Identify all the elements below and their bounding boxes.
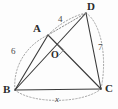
segment-B-A bbox=[15, 35, 48, 90]
vertex-label-A: A bbox=[33, 23, 41, 34]
vertex-label-O: O bbox=[51, 50, 59, 60]
measure-label-x: x bbox=[55, 95, 59, 104]
circumcircle-arcs bbox=[15, 13, 104, 100]
diagonal-A-C bbox=[48, 35, 101, 89]
measure-label-6: 6 bbox=[11, 47, 16, 56]
segment-A-D bbox=[48, 13, 86, 35]
vertex-label-B: B bbox=[3, 84, 10, 95]
measure-label-7: 7 bbox=[98, 43, 103, 52]
vertex-label-D: D bbox=[87, 1, 95, 12]
geometry-figure: A B C D O 4 6 7 x bbox=[0, 0, 118, 109]
measure-label-4: 4 bbox=[58, 15, 63, 24]
segment-B-C bbox=[15, 89, 101, 90]
vertex-label-C: C bbox=[105, 83, 113, 94]
